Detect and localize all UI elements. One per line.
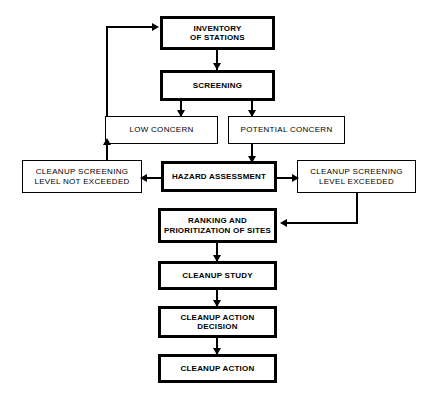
node-label: LOW CONCERN	[129, 125, 193, 134]
arrowhead-feedback-to-inventory	[152, 23, 159, 31]
node-low-concern[interactable]: LOW CONCERN	[105, 116, 218, 144]
node-cleanup-screening-level-exceeded[interactable]: CLEANUP SCREENING LEVEL EXCEEDED	[297, 160, 416, 193]
node-label: HAZARD ASSESSMENT	[172, 172, 266, 181]
flowchart-diagram: INVENTORY OF STATIONS SCREENING LOW CONC…	[0, 0, 431, 402]
node-label: CLEANUP SCREENING LEVEL NOT EXCEEDED	[34, 167, 129, 186]
arrowhead-exceeded-to-ranking	[280, 219, 287, 227]
arrowhead-inventory-to-screening	[213, 63, 221, 70]
node-label: POTENTIAL CONCERN	[241, 125, 333, 134]
node-label: INVENTORY OF STATIONS	[190, 24, 245, 43]
arrowhead-not-exceeded-to-low-concern	[103, 138, 111, 145]
node-label: CLEANUP ACTION DECISION	[181, 313, 255, 332]
connector-feedback-horizontal	[106, 26, 156, 28]
node-label: CLEANUP ACTION	[181, 364, 255, 373]
node-cleanup-action[interactable]: CLEANUP ACTION	[158, 354, 277, 383]
arrowhead-screening-to-potential-concern	[248, 110, 256, 117]
node-label: RANKING AND PRIORITIZATION OF SITES	[164, 216, 271, 235]
arrowhead-potential-concern-to-hazard	[248, 156, 256, 163]
connector-exceeded-to-ranking	[284, 222, 358, 224]
arrowhead-ranking-to-study	[213, 255, 221, 262]
arrowhead-hazard-to-exceeded	[292, 174, 299, 182]
node-potential-concern[interactable]: POTENTIAL CONCERN	[228, 116, 345, 144]
node-screening[interactable]: SCREENING	[160, 70, 275, 101]
node-label: SCREENING	[193, 81, 242, 90]
node-hazard-assessment[interactable]: HAZARD ASSESSMENT	[161, 161, 277, 192]
node-cleanup-study[interactable]: CLEANUP STUDY	[158, 261, 277, 290]
arrowhead-study-to-decision	[213, 300, 221, 307]
arrowhead-decision-to-action	[213, 348, 221, 355]
node-label: CLEANUP STUDY	[182, 271, 252, 280]
node-label: CLEANUP SCREENING LEVEL EXCEEDED	[310, 167, 403, 186]
node-cleanup-action-decision[interactable]: CLEANUP ACTION DECISION	[158, 306, 277, 338]
arrowhead-hazard-to-not-exceeded	[140, 174, 147, 182]
arrowhead-screening-to-low-concern	[177, 110, 185, 117]
node-cleanup-screening-level-not-exceeded[interactable]: CLEANUP SCREENING LEVEL NOT EXCEEDED	[22, 160, 142, 193]
connector-exceeded-vertical	[356, 193, 358, 223]
node-ranking-and-prioritization-of-sites[interactable]: RANKING AND PRIORITIZATION OF SITES	[158, 208, 277, 243]
node-inventory-of-stations[interactable]: INVENTORY OF STATIONS	[160, 16, 275, 50]
